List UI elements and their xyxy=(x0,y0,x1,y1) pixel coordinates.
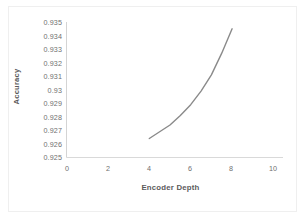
y-tick-label: 0.927 xyxy=(32,126,62,135)
data-series-line xyxy=(149,29,232,139)
x-tick-label: 8 xyxy=(219,164,243,173)
y-tick-label: 0.934 xyxy=(32,32,62,41)
x-tick-label: 0 xyxy=(55,164,79,173)
x-tick-label: 10 xyxy=(261,164,285,173)
y-tick-label: 0.929 xyxy=(32,99,62,108)
y-tick-label: 0.935 xyxy=(32,18,62,27)
y-tick-label: 0.933 xyxy=(32,45,62,54)
y-tick-label: 0.928 xyxy=(32,113,62,122)
y-axis-title: Accuracy xyxy=(12,57,21,117)
x-tick-label: 4 xyxy=(137,164,161,173)
y-tick-label: 0.925 xyxy=(32,153,62,162)
y-tick-label: 0.931 xyxy=(32,72,62,81)
y-tick-label: 0.926 xyxy=(32,140,62,149)
y-tick-label: 0.932 xyxy=(32,59,62,68)
x-tick-label: 6 xyxy=(178,164,202,173)
x-axis-title: Encoder Depth xyxy=(67,183,274,192)
x-tick-label: 2 xyxy=(96,164,120,173)
chart-figure: 0.935 0.934 0.933 0.932 0.931 0.93 0.929… xyxy=(0,0,305,221)
y-tick-label: 0.93 xyxy=(32,86,62,95)
